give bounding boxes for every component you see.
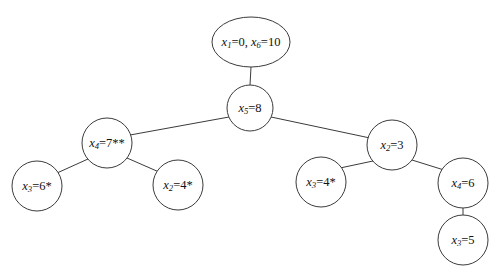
tree-node: x2=3 [367, 120, 417, 170]
tree-edge [127, 158, 159, 172]
tree-node: x4=7** [82, 118, 132, 168]
node-label: x3=4* [305, 175, 335, 190]
node-label: x3=6* [21, 179, 51, 194]
node-label: x2=4* [162, 178, 192, 193]
tree-node: x5=8 [227, 85, 273, 131]
tree-node: x3=5 [438, 215, 488, 265]
branch-and-bound-tree-diagram: x1=0, x6=10x5=8x4=7**x3=6*x2=4*x2=3x3=4*… [0, 0, 501, 276]
nodes-layer: x1=0, x6=10x5=8x4=7**x3=6*x2=4*x2=3x3=4*… [12, 17, 488, 265]
node-label: x5=8 [237, 101, 261, 116]
tree-edge [250, 67, 251, 85]
tree-edge [412, 160, 444, 170]
tree-edge [130, 117, 229, 135]
node-label: x2=3 [379, 138, 403, 153]
tree-node: x3=4* [296, 157, 346, 207]
tree-node: x2=4* [153, 160, 203, 210]
tree-node: x3=6* [12, 161, 62, 211]
tree-canvas: x1=0, x6=10x5=8x4=7**x3=6*x2=4*x2=3x3=4*… [0, 0, 501, 276]
node-label: x3=5 [450, 233, 474, 248]
tree-edge [340, 161, 373, 168]
tree-edge [57, 159, 88, 173]
node-label: x4=6 [450, 176, 474, 191]
tree-node: x1=0, x6=10 [212, 17, 290, 67]
tree-edge [271, 117, 370, 138]
tree-node: x4=6 [438, 158, 488, 208]
node-label: x4=7** [88, 136, 125, 151]
